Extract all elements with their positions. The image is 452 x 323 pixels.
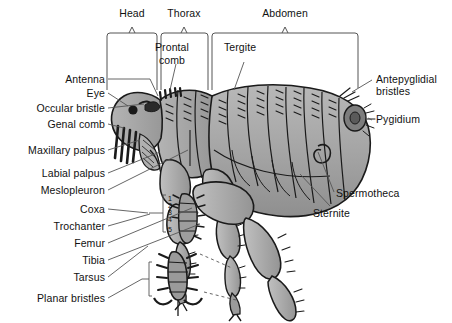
tarsal-segment-number-3: 3 (168, 209, 172, 216)
flea-head (112, 93, 163, 184)
label-maxillary-palpus: Maxillary palpus (0, 145, 105, 157)
label-antepyglidial-bristles: Antepyglidial bristles (376, 74, 452, 97)
label-coxa: Coxa (0, 204, 105, 216)
eye-shape (128, 105, 137, 114)
label-genal-comb: Genal comb (0, 119, 105, 131)
tarsal-segment-number-1: 1 (168, 195, 172, 202)
tarsal-segment-number-2: 2 (168, 202, 172, 209)
label-labial-palpus: Labial palpus (0, 168, 105, 180)
label-prontal-comb-line2: comb (144, 55, 200, 67)
bracket-label-thorax: Thorax (154, 8, 214, 20)
tarsal-segment-number-4: 4 (168, 216, 172, 223)
label-eye: Eye (0, 88, 105, 100)
label-tibia: Tibia (0, 255, 105, 267)
label-spermotheca: Spermotheca (336, 188, 446, 200)
bracket-label-head: Head (102, 8, 162, 20)
label-femur: Femur (0, 238, 105, 250)
label-pygidium: Pygidium (376, 114, 452, 126)
bracket-abdomen (212, 27, 358, 90)
flea-anatomy-figure: Head Thorax Abdomen Prontal comb Tergite… (0, 0, 452, 323)
label-mesiopleuron: Meslopleuron (0, 185, 105, 197)
label-planar-bristles: Planar bristles (0, 293, 105, 305)
label-occular-bristle: Occular bristle (0, 103, 105, 115)
label-prontal-comb-line1: Prontal (144, 42, 200, 54)
bracket-label-abdomen: Abdomen (255, 8, 315, 20)
label-tarsus: Tarsus (0, 272, 105, 284)
antenna-shape (145, 102, 160, 112)
label-trochanter: Trochanter (0, 221, 105, 233)
label-sternite: Sternite (313, 208, 393, 220)
label-tergite: Tergite (212, 42, 268, 54)
tarsal-segment-number-5: 5 (168, 226, 172, 233)
label-antenna: Antenna (0, 74, 105, 86)
